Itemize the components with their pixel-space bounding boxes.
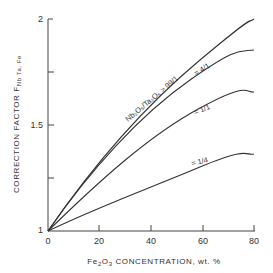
y-tick-label: 2 xyxy=(38,14,43,24)
x-tick-label: 20 xyxy=(94,236,104,246)
x-tick-label: 60 xyxy=(198,236,208,246)
x-tick-labels: 0 20 40 60 80 xyxy=(45,236,259,246)
x-tick-label: 40 xyxy=(146,236,156,246)
y-tick-label: 1 xyxy=(38,225,43,235)
chart: 2 1.5 1 0 20 40 60 80 Fe2O3 CONCENTRATIO… xyxy=(0,0,273,273)
y-axis-title: CORRECTION FACTOR FNb Ta, Fe xyxy=(12,55,22,193)
x-tick-label: 80 xyxy=(249,236,259,246)
curve-99-1 xyxy=(48,19,254,231)
curve-label-1-1: = 1/1 xyxy=(192,102,211,117)
y-tick-label: 1.5 xyxy=(30,120,43,130)
curve-4-1 xyxy=(48,50,254,231)
curve-1-4 xyxy=(48,153,254,231)
y-tick-labels: 2 1.5 1 xyxy=(30,14,43,235)
curve-label-99-1: Nb₂O₅/Ta₂O₅ > 99/1 xyxy=(124,74,181,123)
curves xyxy=(48,19,254,231)
axes xyxy=(48,19,255,231)
x-axis-title: Fe2O3 CONCENTRATION, wt. % xyxy=(87,257,220,267)
curve-label-1-4: = 1/4 xyxy=(190,155,209,168)
x-tick-label: 0 xyxy=(45,236,50,246)
